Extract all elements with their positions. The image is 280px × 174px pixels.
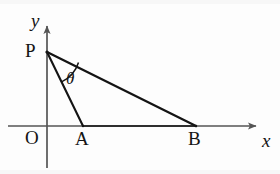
origin-label: O — [25, 128, 39, 147]
point-label-a: A — [75, 129, 89, 148]
point-label-p: P — [25, 41, 36, 60]
vertex-point-a — [82, 125, 84, 127]
geometry-figure: y x P O A B θ — [0, 0, 280, 174]
segment-pb — [47, 52, 196, 126]
vertex-point-b — [195, 125, 197, 127]
vertex-point-p — [45, 50, 48, 53]
y-axis-label: y — [31, 11, 39, 30]
point-label-b: B — [188, 129, 201, 148]
x-axis-label: x — [262, 131, 270, 150]
figure-canvas — [0, 0, 280, 174]
angle-label-theta: θ — [66, 70, 74, 87]
